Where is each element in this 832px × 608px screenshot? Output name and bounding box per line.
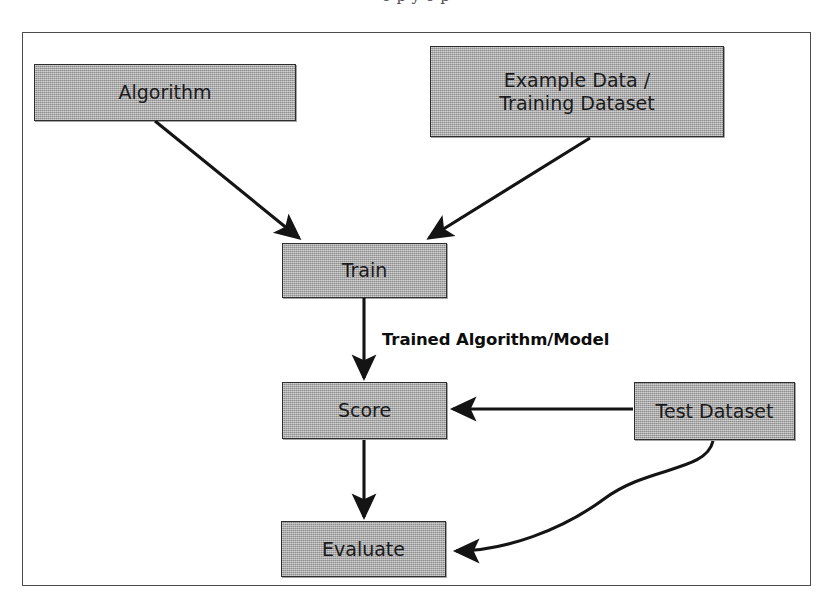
- node-example-data[interactable]: Example Data / Training Dataset: [430, 46, 724, 137]
- node-train[interactable]: Train: [282, 243, 447, 298]
- node-test-dataset[interactable]: Test Dataset: [634, 382, 795, 440]
- edge-example-data-to-train: [429, 138, 590, 238]
- edge-test-dataset-to-evaluate: [456, 441, 713, 551]
- node-algorithm[interactable]: Algorithm: [34, 64, 296, 121]
- edge-algorithm-to-train: [155, 121, 299, 238]
- node-score[interactable]: Score: [282, 382, 447, 439]
- node-evaluate[interactable]: Evaluate: [281, 521, 446, 577]
- workflow-diagram: Algorithm Example Data / Training Datase…: [0, 0, 832, 608]
- edge-label-trained-algorithm-model: Trained Algorithm/Model: [382, 330, 609, 349]
